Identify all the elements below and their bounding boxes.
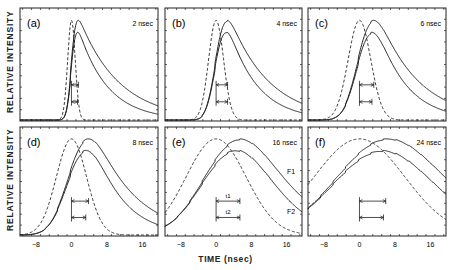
panel-c: (c)6 nsec [308, 8, 446, 121]
pulse-width-label: 4 nsec [276, 20, 297, 27]
figure: (a)2 nsec(b)4 nsec(c)6 nsec(d)8 nsec−808… [0, 0, 451, 270]
f1-label: F1 [287, 168, 295, 175]
f2-curve [165, 32, 302, 120]
f1-curve [20, 20, 158, 120]
x-tick-label: −8 [177, 241, 185, 248]
panel-d: (d)8 nsec−80816 [20, 127, 158, 248]
pulse-width-label: 16 nsec [272, 139, 297, 146]
laser-pulse-curve [20, 20, 158, 120]
x-tick-label: −8 [32, 241, 40, 248]
pulse-width-label: 6 nsec [420, 20, 441, 27]
f2-curve [20, 32, 158, 120]
x-tick-label: 16 [427, 241, 435, 248]
panel-a: (a)2 nsec [20, 8, 158, 121]
x-tick-label: 16 [139, 241, 147, 248]
f1-curve [165, 139, 302, 227]
y-axis-label-top: RELATIVE INTENSITY [5, 13, 15, 113]
x-tick-label: −8 [320, 241, 328, 248]
f1-curve [308, 139, 446, 209]
t1-label: t1 [225, 193, 231, 199]
y-axis-label-bottom: RELATIVE INTENSITY [5, 131, 15, 231]
x-tick-label: 8 [249, 241, 253, 248]
x-tick-label: 0 [214, 241, 218, 248]
panel-e: t1t2F1F2(e)16 nsec−80816 [165, 127, 302, 248]
panel-label: (f) [315, 136, 325, 148]
panel-b: (b)4 nsec [165, 8, 302, 121]
pulse-width-label: 2 nsec [132, 20, 153, 27]
f2-curve [165, 150, 302, 226]
x-tick-label: 8 [105, 241, 109, 248]
panel-label: (c) [315, 17, 328, 29]
panel-label: (e) [172, 136, 185, 148]
panel-label: (d) [27, 136, 40, 148]
t2-label: t2 [225, 209, 231, 215]
x-tick-label: 8 [393, 241, 397, 248]
x-tick-label: 0 [358, 241, 362, 248]
f2-label: F2 [287, 208, 295, 215]
f2-curve [308, 32, 446, 120]
panel-label: (a) [27, 17, 40, 29]
x-axis-title: TIME (nsec) [0, 254, 451, 264]
f1-curve [20, 139, 158, 235]
pulse-width-label: 24 nsec [416, 139, 441, 146]
panel-f: (f)24 nsec−80816 [308, 127, 446, 248]
x-tick-label: 16 [283, 241, 291, 248]
laser-pulse-curve [20, 139, 158, 235]
x-tick-label: 0 [70, 241, 74, 248]
laser-pulse-curve [308, 139, 446, 220]
pulse-width-label: 8 nsec [132, 139, 153, 146]
laser-pulse-curve [165, 139, 302, 234]
panel-label: (b) [172, 17, 185, 29]
